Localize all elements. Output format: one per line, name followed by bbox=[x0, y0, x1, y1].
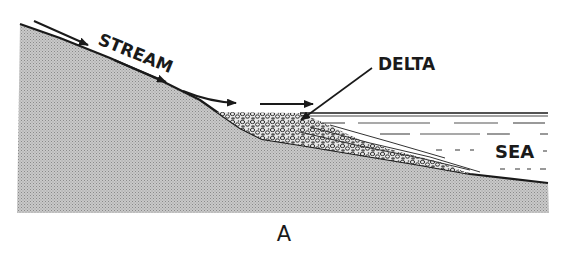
figure-caption: A bbox=[0, 222, 568, 246]
label-sea: SEA bbox=[495, 141, 534, 162]
delta-formation-diagram: STREAM DELTA SEA bbox=[0, 0, 568, 257]
label-delta: DELTA bbox=[378, 54, 436, 74]
